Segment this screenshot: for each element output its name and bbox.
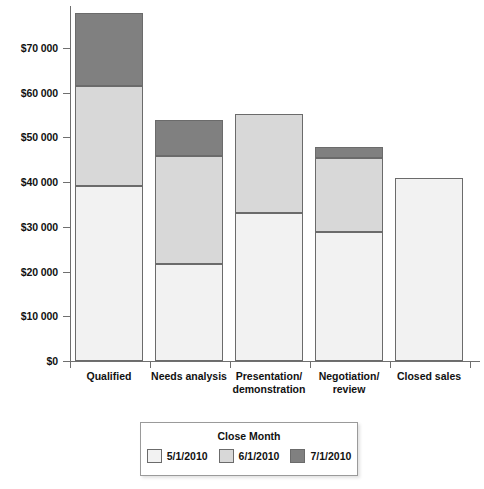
- y-axis-tick-label: $30 000: [0, 221, 58, 233]
- y-axis-tick-label: $50 000: [0, 131, 58, 143]
- legend-swatch-icon: [219, 449, 234, 463]
- bar-segment-6/1/2010[interactable]: [315, 158, 383, 232]
- category-label-3: Presentation/demonstration: [225, 370, 313, 396]
- category-label-line1: Negotiation/: [305, 370, 393, 383]
- category-label-1: Qualified: [65, 370, 153, 383]
- category-label-line1: Closed sales: [385, 370, 473, 383]
- y-axis-tick-label: $10 000: [0, 310, 58, 322]
- y-axis-tick: [63, 137, 71, 138]
- y-axis-tick: [63, 227, 71, 228]
- bar-segment-5/1/2010[interactable]: [315, 232, 383, 361]
- x-axis-line: [70, 361, 480, 362]
- y-axis-tick-label: $40 000: [0, 176, 58, 188]
- bar-segment-6/1/2010[interactable]: [235, 114, 303, 213]
- x-axis-tick: [150, 361, 151, 368]
- legend-item-3[interactable]: 7/1/2010: [290, 449, 351, 463]
- bar-segment-5/1/2010[interactable]: [235, 213, 303, 361]
- bar-4[interactable]: [315, 0, 383, 361]
- category-label-5: Closed sales: [385, 370, 473, 383]
- legend-item-label: 6/1/2010: [239, 450, 280, 462]
- legend-title: Close Month: [141, 430, 357, 442]
- y-axis-tick-label: $70 000: [0, 42, 58, 54]
- bar-3[interactable]: [235, 0, 303, 361]
- category-label-line1: Qualified: [65, 370, 153, 383]
- bar-segment-7/1/2010[interactable]: [75, 13, 143, 86]
- category-label-line2: review: [305, 383, 393, 396]
- legend-item-1[interactable]: 5/1/2010: [147, 449, 208, 463]
- stacked-bar-chart: $0$10 000$20 000$30 000$40 000$50 000$60…: [0, 0, 484, 489]
- legend-swatch-icon: [147, 449, 162, 463]
- bar-segment-6/1/2010[interactable]: [75, 86, 143, 185]
- plot-area: $0$10 000$20 000$30 000$40 000$50 000$60…: [0, 0, 484, 375]
- bar-segment-7/1/2010[interactable]: [155, 120, 223, 157]
- x-axis-tick: [310, 361, 311, 368]
- x-axis-tick: [230, 361, 231, 368]
- legend-item-2[interactable]: 6/1/2010: [219, 449, 280, 463]
- bar-segment-7/1/2010[interactable]: [315, 147, 383, 158]
- y-axis-tick-label: $20 000: [0, 266, 58, 278]
- category-label-line1: Presentation/: [225, 370, 313, 383]
- legend-item-label: 7/1/2010: [310, 450, 351, 462]
- legend-swatch-icon: [290, 449, 305, 463]
- legend: Close Month 5/1/20106/1/20107/1/2010: [140, 422, 358, 476]
- bar-5[interactable]: [395, 0, 463, 361]
- bar-segment-5/1/2010[interactable]: [395, 178, 463, 361]
- bar-segment-6/1/2010[interactable]: [155, 156, 223, 264]
- y-axis-line: [70, 6, 71, 362]
- legend-item-label: 5/1/2010: [167, 450, 208, 462]
- x-axis-tick: [470, 361, 471, 368]
- y-axis-tick-label: $0: [0, 355, 58, 367]
- y-axis-tick: [63, 93, 71, 94]
- y-axis-tick: [63, 182, 71, 183]
- bar-segment-5/1/2010[interactable]: [155, 264, 223, 361]
- y-axis-tick: [63, 48, 71, 49]
- category-label-line2: demonstration: [225, 383, 313, 396]
- y-axis-tick: [63, 272, 71, 273]
- category-label-2: Needs analysis: [145, 370, 233, 383]
- y-axis-tick-label: $60 000: [0, 87, 58, 99]
- bar-2[interactable]: [155, 0, 223, 361]
- y-axis-tick: [63, 316, 71, 317]
- legend-items: 5/1/20106/1/20107/1/2010: [141, 449, 357, 463]
- category-label-4: Negotiation/review: [305, 370, 393, 396]
- category-label-line1: Needs analysis: [145, 370, 233, 383]
- x-axis-tick: [70, 361, 71, 368]
- x-axis-tick: [390, 361, 391, 368]
- bar-segment-5/1/2010[interactable]: [75, 186, 143, 361]
- bar-1[interactable]: [75, 0, 143, 361]
